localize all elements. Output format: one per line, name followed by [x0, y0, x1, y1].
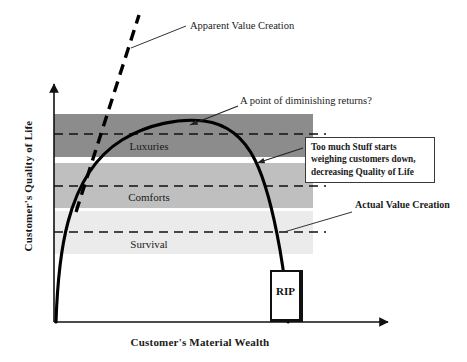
band-label-luxuries: Luxuries — [109, 140, 189, 152]
callout-diminishing-returns: A point of diminishing returns? — [240, 95, 372, 106]
band-label-survival: Survival — [109, 238, 189, 250]
note-box-line-3: decreasing Quality of Life — [311, 166, 430, 178]
tombstone-label: RIP — [270, 285, 301, 297]
note-box-line-1: Too much Stuff starts — [311, 141, 430, 153]
callout-apparent-value-creation: Apparent Value Creation — [190, 20, 294, 31]
actual-leader-line — [284, 212, 352, 232]
value-creation-chart: Customer's Quality of Life Customer's Ma… — [0, 0, 467, 362]
note-leader-line — [257, 148, 303, 163]
y-axis-title: Customer's Quality of Life — [22, 96, 34, 276]
note-box-line-2: weighing customers down, — [311, 153, 430, 165]
apparent-value-line — [76, 15, 139, 212]
apparent-leader-line — [131, 26, 186, 48]
band-label-comforts: Comforts — [109, 191, 189, 203]
note-box-too-much-stuff: Too much Stuff starts weighing customers… — [305, 137, 435, 183]
callout-actual-value-creation: Actual Value Creation — [355, 199, 450, 210]
x-axis-title: Customer's Material Wealth — [60, 336, 340, 348]
